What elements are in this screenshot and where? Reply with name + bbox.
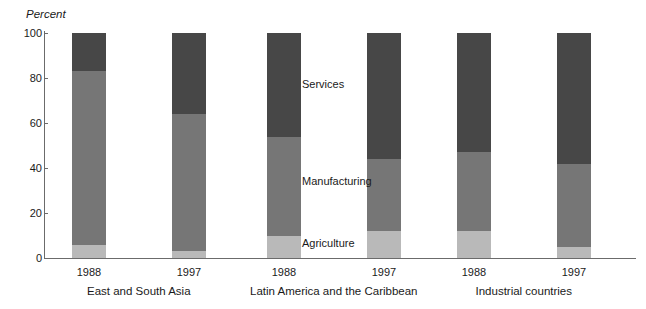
y-axis-tick-label: 80 xyxy=(16,72,42,84)
y-axis-tick-labels: 100806040200 xyxy=(12,0,42,309)
bar-segment-agriculture xyxy=(457,231,491,258)
bar-segment-services xyxy=(367,33,401,159)
bar-segment-manufacturing xyxy=(457,152,491,231)
bar-segment-services xyxy=(172,33,206,114)
series-label-manufacturing: Manufacturing xyxy=(302,175,372,187)
series-label-services: Services xyxy=(302,78,344,90)
bar-segment-manufacturing xyxy=(72,71,106,244)
bar-segment-manufacturing xyxy=(172,114,206,251)
bar-east-and-south-asia-1997[interactable] xyxy=(172,33,206,258)
y-axis-tick-label: 0 xyxy=(16,252,42,264)
bar-segment-agriculture xyxy=(367,231,401,258)
bar-segment-manufacturing xyxy=(557,164,591,247)
bar-industrial-countries-1988[interactable] xyxy=(457,33,491,258)
bar-segment-agriculture xyxy=(557,247,591,258)
y-axis-tick-label: 40 xyxy=(16,162,42,174)
bar-segment-manufacturing xyxy=(267,137,301,236)
plot-area xyxy=(45,33,636,258)
bar-east-and-south-asia-1988[interactable] xyxy=(72,33,106,258)
x-axis-group-label: Latin America and the Caribbean xyxy=(250,285,418,297)
x-axis-line xyxy=(44,258,636,259)
x-axis-year-label: 1997 xyxy=(544,266,604,278)
bar-industrial-countries-1997[interactable] xyxy=(557,33,591,258)
bar-segment-manufacturing xyxy=(367,159,401,231)
bar-latin-america-and-the-caribbean-1988[interactable] xyxy=(267,33,301,258)
bar-segment-agriculture xyxy=(267,236,301,259)
y-axis-tick-mark xyxy=(44,258,48,259)
y-axis-tick-label: 100 xyxy=(16,27,42,39)
y-axis-tick-label: 60 xyxy=(16,117,42,129)
x-axis-year-label: 1988 xyxy=(59,266,119,278)
bar-segment-agriculture xyxy=(72,245,106,259)
x-axis-year-label: 1997 xyxy=(354,266,414,278)
bar-segment-services xyxy=(557,33,591,164)
bar-segment-services xyxy=(267,33,301,137)
y-axis-tick-label: 20 xyxy=(16,207,42,219)
x-axis-year-label: 1997 xyxy=(159,266,219,278)
series-label-agriculture: Agriculture xyxy=(302,237,355,249)
bar-segment-agriculture xyxy=(172,251,206,258)
x-axis-year-label: 1988 xyxy=(444,266,504,278)
stacked-bar-chart: Percent 100806040200 Services Manufactur… xyxy=(0,0,646,309)
x-axis-year-label: 1988 xyxy=(254,266,314,278)
bar-segment-services xyxy=(72,33,106,71)
x-axis-group-label: Industrial countries xyxy=(476,285,573,297)
bar-latin-america-and-the-caribbean-1997[interactable] xyxy=(367,33,401,258)
x-axis-group-label: East and South Asia xyxy=(87,285,191,297)
bar-segment-services xyxy=(457,33,491,152)
